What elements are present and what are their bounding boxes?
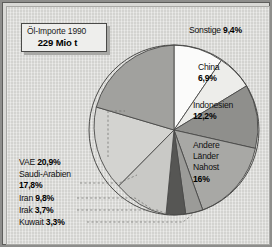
slice-label-indonesien-name: Indonesien xyxy=(193,100,233,111)
slice-label-kuwait-value: 3,3% xyxy=(46,217,65,227)
slice-label-china: China 6,9% xyxy=(198,62,219,84)
slice-label-nahost-name-3: Nahost xyxy=(193,162,220,173)
slice-label-saudi-arabien: Saudi-Arabien 17,8% xyxy=(19,169,71,191)
title-line-2: 229 Mio t xyxy=(27,37,102,49)
title-box: Öl-Importe 1990 229 Mio t xyxy=(21,23,107,52)
slice-label-indonesien-value: 12,2% xyxy=(193,111,216,121)
slice-label-sonstige-value: 9,4% xyxy=(223,25,242,35)
chart-canvas: Öl-Importe 1990 229 Mio t Sonstige 9,4% … xyxy=(6,6,270,245)
slice-label-kuwait-name: Kuwait xyxy=(19,217,44,227)
slice-label-irak-name: Irak xyxy=(19,205,33,215)
slice-label-vae: VAE 20,9% xyxy=(19,157,61,168)
slice-label-vae-value: 20,9% xyxy=(37,157,60,167)
slice-label-indonesien: Indonesien 12,2% xyxy=(193,100,233,122)
slice-label-sonstige-name: Sonstige xyxy=(189,25,221,35)
slice-label-vae-name: VAE xyxy=(19,157,35,167)
slice-label-irak: Irak 3,7% xyxy=(19,205,54,216)
slice-label-china-value: 6,9% xyxy=(198,73,217,83)
slice-label-nahost-value: 16% xyxy=(193,174,210,184)
slice-label-saudi-value: 17,8% xyxy=(19,180,42,190)
slice-label-china-name: China xyxy=(198,62,219,73)
pie-slices xyxy=(94,45,258,215)
slice-label-kuwait: Kuwait 3,3% xyxy=(19,217,65,228)
slice-label-saudi-name: Saudi-Arabien xyxy=(19,169,71,180)
chart-frame: Öl-Importe 1990 229 Mio t Sonstige 9,4% … xyxy=(0,0,272,247)
slice-label-iran-value: 9,8% xyxy=(35,193,54,203)
slice-label-iran-name: Iran xyxy=(19,193,33,203)
slice-label-nahost-name-2: Länder xyxy=(193,151,220,162)
title-line-1: Öl-Importe 1990 xyxy=(27,26,102,37)
slice-label-andere-laender-nahost: Andere Länder Nahost 16% xyxy=(193,140,220,185)
slice-label-sonstige: Sonstige 9,4% xyxy=(189,25,242,36)
slice-label-irak-value: 3,7% xyxy=(35,205,54,215)
slice-label-iran: Iran 9,8% xyxy=(19,193,54,204)
slice-label-nahost-name-1: Andere xyxy=(193,140,220,151)
